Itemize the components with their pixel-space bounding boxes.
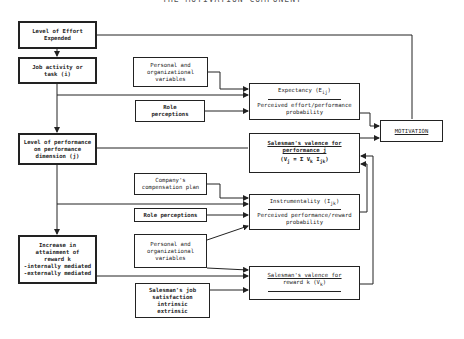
box-valence-performance: Salesman's valence for performance j (Vj…	[249, 133, 360, 173]
box-text: perceptions	[151, 111, 188, 118]
heading-text: Salesman's valence for	[267, 140, 341, 147]
box-text: -internally mediated	[24, 263, 91, 270]
box-text: satisfaction	[152, 294, 192, 301]
valence-formula: (Vj = Σ Vk Ijk)	[280, 156, 328, 165]
box-text: Level of Effort	[32, 28, 83, 35]
box-text: variables	[155, 76, 185, 83]
box-text: variables	[155, 255, 185, 262]
box-text: compensation plan	[142, 184, 199, 191]
box-text: Role perceptions	[144, 212, 198, 219]
heading-text: reward k (V	[283, 279, 320, 285]
box-text: Company's	[155, 177, 185, 184]
box-text: -externally mediated	[24, 270, 91, 277]
box-text: on performance	[34, 146, 81, 153]
box-personal-org-variables-1: Personal and organizational variables	[133, 57, 208, 87]
divider	[268, 209, 342, 210]
box-compensation-plan: Company's compensation plan	[134, 173, 207, 195]
heading-text: Salesman's valence for	[267, 272, 341, 279]
expectancy-heading: Expectancy (Eij)	[278, 87, 331, 96]
box-text: probability	[286, 109, 323, 116]
box-text: Expended	[44, 35, 71, 42]
motivation-label: MOTIVATION	[395, 128, 429, 135]
box-text: Personal and	[150, 62, 190, 69]
heading-text: )	[328, 87, 331, 93]
formula-text: = Σ V	[290, 156, 310, 162]
heading-text: performance j	[283, 147, 327, 154]
box-job-activity: Job activity or task (i)	[18, 57, 97, 84]
box-text: Personal and	[150, 241, 190, 248]
box-increase-in-reward: Increase in attainment of reward k -inte…	[18, 235, 97, 284]
heading-text: Instrumentality (I	[270, 198, 331, 204]
box-text: intrinsic	[157, 301, 187, 308]
box-role-perceptions-2: Role perceptions	[134, 208, 207, 222]
instrumentality-heading: Instrumentality (Ijk)	[270, 198, 340, 207]
divider	[268, 291, 342, 292]
divider	[268, 99, 342, 100]
box-text: dimension (j)	[36, 153, 80, 160]
box-expectancy: Expectancy (Eij) Perceived effort/perfor…	[249, 83, 360, 120]
box-text: extrinsic	[157, 308, 187, 315]
box-role-perceptions-1: Role perceptions	[135, 100, 205, 122]
heading-text: )	[323, 279, 326, 285]
box-text: task (i)	[44, 71, 71, 78]
box-text: reward k	[44, 256, 71, 263]
box-text: Level of performance	[24, 139, 91, 146]
formula-text: )	[325, 156, 328, 162]
heading-text: Expectancy (E	[278, 87, 322, 93]
heading-text: )	[336, 198, 339, 204]
box-valence-reward: Salesman's valence for reward k (Vk)	[249, 266, 360, 300]
box-motivation: MOTIVATION	[380, 120, 443, 142]
diagram-title: THE MOTIVATION COMPONENT	[0, 0, 464, 4]
valence-reward-line: reward k (Vk)	[283, 279, 326, 288]
box-level-of-effort: Level of Effort Expended	[18, 21, 97, 49]
box-text: Perceived effort/performance	[257, 102, 351, 109]
connector-lines	[0, 0, 464, 339]
box-level-of-performance: Level of performance on performance dime…	[18, 133, 97, 165]
formula-text: I	[313, 156, 320, 162]
box-text: Job activity or	[32, 64, 83, 71]
box-text: Salesman's job	[149, 287, 196, 294]
box-instrumentality: Instrumentality (Ijk) Perceived performa…	[249, 194, 360, 230]
box-text: probability	[286, 219, 323, 226]
box-text: attainment of	[36, 249, 80, 256]
box-text: organizational	[147, 69, 194, 76]
box-text: organizational	[147, 248, 194, 255]
box-text: Role	[163, 104, 176, 111]
box-job-satisfaction: Salesman's job satisfaction intrinsic ex…	[135, 283, 210, 318]
box-personal-org-variables-2: Personal and organizational variables	[134, 234, 207, 268]
box-text: Increase in	[39, 242, 76, 249]
box-text: Perceived performance/reward	[257, 212, 351, 219]
